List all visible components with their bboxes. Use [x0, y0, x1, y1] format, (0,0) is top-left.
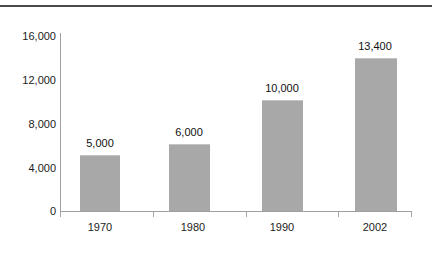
y-tick-label-4000: 4,000	[2, 163, 56, 174]
y-tick-label-8000: 8,000	[2, 119, 56, 130]
y-tick-label-12000: 12,000	[2, 75, 56, 86]
bar-chart-figure: 16,000 12,000 8,000 4,000 0 5,000 6,000 …	[0, 0, 432, 256]
bar-2002	[355, 58, 397, 211]
y-tick-label-0: 0	[2, 206, 56, 217]
y-axis-tick-labels: 16,000 12,000 8,000 4,000 0	[0, 0, 56, 256]
x-axis-tick	[411, 212, 412, 217]
bar-value-label-1990: 10,000	[249, 83, 315, 94]
x-category-label-1970: 1970	[71, 221, 129, 233]
x-category-label-2002: 2002	[346, 221, 404, 233]
x-axis-line	[60, 211, 412, 212]
y-tick-label-16000: 16,000	[2, 31, 56, 42]
x-axis-tick	[60, 212, 61, 217]
bar-value-label-1980: 6,000	[159, 127, 219, 138]
bar-value-label-2002: 13,400	[342, 41, 408, 52]
x-axis-tick	[246, 212, 247, 217]
x-category-label-1990: 1990	[253, 221, 311, 233]
y-axis-line	[60, 33, 61, 212]
x-axis-tick	[338, 212, 339, 217]
x-axis-tick	[153, 212, 154, 217]
bar-1980	[169, 144, 210, 211]
bar-1990	[262, 100, 303, 211]
bar-value-label-1970: 5,000	[70, 138, 130, 149]
top-border-rule	[0, 5, 432, 7]
bar-1970	[80, 155, 120, 211]
x-category-label-1980: 1980	[164, 221, 222, 233]
